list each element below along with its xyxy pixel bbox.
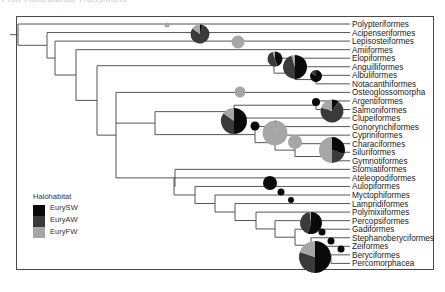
state-pie [251,122,260,131]
state-pie [278,189,285,196]
legend-label-eurysw: EurySW [50,203,79,212]
legend-label-euryaw: EuryAW [50,215,78,224]
state-pie [321,100,344,123]
pie-slice [288,135,302,149]
pie-slice [288,197,294,203]
pie-slice [251,122,260,131]
legend-swatch-eurysw [33,205,45,216]
state-pie [235,87,246,98]
state-pie [288,197,294,203]
pie-slice [312,98,320,106]
state-pie [283,55,307,79]
state-pie [299,241,331,273]
state-pie [312,98,320,106]
state-pie [263,176,277,190]
pie-slice [319,137,332,163]
state-pie [328,238,335,245]
legend-swatch-euryfw [33,227,45,238]
state-pie [319,137,345,163]
legend: Halohabitat EurySW EuryAW EuryFW [33,192,79,238]
pie-slice [235,87,246,98]
pie-slice [232,36,245,49]
taxon-label: Percomorphacea [352,259,415,268]
legend-label-euryfw: EuryFW [50,227,78,236]
state-pie [165,23,170,28]
legend-swatch-euryaw [33,216,45,227]
pie-slice [278,189,285,196]
pie-slice [165,23,170,28]
pie-slice [319,229,326,236]
state-pie [190,25,209,44]
state-pie [310,70,322,82]
pie-slice [328,238,335,245]
state-pie [221,108,247,134]
state-pie [338,246,345,253]
state-pie [288,135,302,149]
pie-slice [262,120,287,145]
state-pie [262,120,287,145]
state-pie [319,229,326,236]
legend-title: Halohabitat [33,192,72,201]
state-pie [232,36,245,49]
pie-slice [263,176,277,190]
pie-slice [338,246,345,253]
pie-slice [234,108,247,134]
taxon-labels: PolypteriformesAcipenseriformesLepisoste… [352,20,434,268]
state-pie [300,212,322,234]
ancestral-state-pies [165,23,346,274]
state-pie [268,52,283,67]
phylogenetic-tree: PolypteriformesAcipenseriformesLepisoste… [0,0,445,292]
